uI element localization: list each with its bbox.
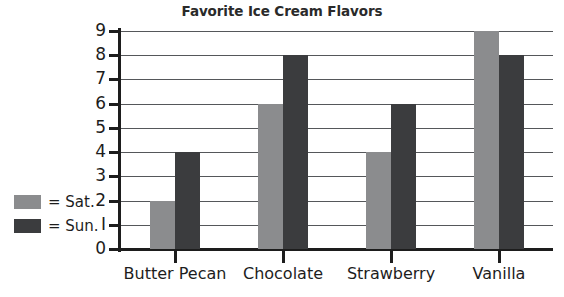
y-axis-tick xyxy=(109,78,120,81)
y-axis-tick xyxy=(109,200,120,203)
y-axis-label: 3 xyxy=(78,167,106,184)
y-axis-label: 0 xyxy=(78,240,106,257)
legend-label: = Sat. xyxy=(48,195,95,210)
y-axis-label: 5 xyxy=(78,119,106,136)
x-axis-tick xyxy=(390,251,393,263)
y-axis-tick xyxy=(109,175,120,178)
y-axis-tick xyxy=(109,224,120,227)
y-axis-tick xyxy=(109,30,120,33)
legend-label: = Sun. xyxy=(48,219,99,234)
x-axis-tick xyxy=(174,251,177,263)
y-axis-label: 4 xyxy=(78,143,106,160)
bar-sat-3 xyxy=(474,31,499,249)
chart-title: Favorite Ice Cream Flavors xyxy=(0,3,564,19)
y-axis-tick xyxy=(109,103,120,106)
y-axis-tick xyxy=(109,127,120,130)
chart-legend: = Sat.= Sun. xyxy=(14,190,99,238)
bar-sun-2 xyxy=(391,104,416,249)
y-axis-label: 7 xyxy=(78,70,106,87)
legend-swatch-icon xyxy=(14,219,41,233)
bar-sat-2 xyxy=(366,152,391,249)
bar-sun-3 xyxy=(499,55,524,249)
x-axis-label-3: Vanilla xyxy=(429,265,564,283)
y-axis-label: 9 xyxy=(78,22,106,39)
x-axis-tick xyxy=(498,251,501,263)
x-axis-tick xyxy=(282,251,285,263)
y-axis-label: 6 xyxy=(78,95,106,112)
bar-sat-1 xyxy=(258,104,283,249)
plot-area xyxy=(121,31,553,249)
legend-swatch-icon xyxy=(14,195,41,209)
legend-item: = Sun. xyxy=(14,214,99,238)
bar-sun-0 xyxy=(175,152,200,249)
y-axis-tick xyxy=(109,151,120,154)
bar-sat-0 xyxy=(150,201,175,249)
y-axis-label: 8 xyxy=(78,46,106,63)
legend-item: = Sat. xyxy=(14,190,99,214)
bar-sun-1 xyxy=(283,55,308,249)
y-axis-tick xyxy=(109,248,120,251)
y-axis-tick xyxy=(109,54,120,57)
